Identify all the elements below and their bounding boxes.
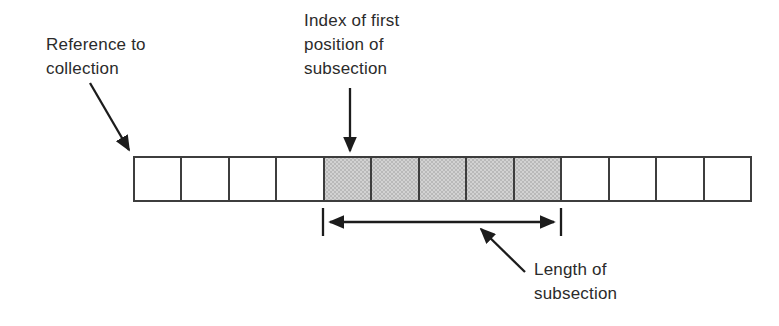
length-pointer-arrow — [481, 229, 525, 272]
diagram-canvas: Reference to collection Index of first p… — [0, 0, 779, 326]
array-cell-shaded — [420, 158, 467, 200]
array-cell — [230, 158, 277, 200]
length-of-subsection-label: Length of subsection — [534, 258, 617, 306]
array-cell-shaded — [467, 158, 514, 200]
collection-array — [133, 156, 752, 202]
array-cell — [610, 158, 657, 200]
array-cell-shaded — [372, 158, 419, 200]
array-cell — [657, 158, 704, 200]
array-cell — [705, 158, 750, 200]
array-cell — [277, 158, 324, 200]
array-cell — [182, 158, 229, 200]
array-cell — [562, 158, 609, 200]
index-of-first-position-label: Index of first position of subsection — [304, 9, 399, 81]
reference-arrow — [90, 83, 129, 150]
array-cell-shaded — [515, 158, 562, 200]
array-cell — [135, 158, 182, 200]
reference-to-collection-label: Reference to collection — [46, 33, 146, 81]
array-cell-shaded — [325, 158, 372, 200]
